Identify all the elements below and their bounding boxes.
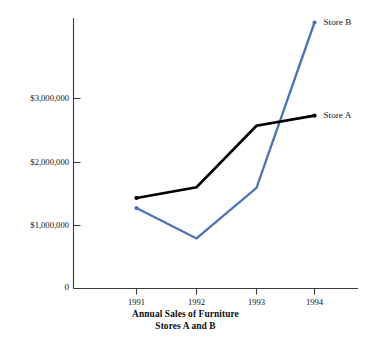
chart-title-block: Annual Sales of Furniture Stores A and B — [0, 309, 371, 332]
series-line-store-b — [137, 23, 315, 239]
x-tick-label-1991: 1991 — [128, 297, 145, 307]
series-label-store-a: Store A — [324, 110, 352, 120]
chart-title: Annual Sales of Furniture — [0, 309, 371, 321]
series-label-store-b: Store B — [324, 17, 352, 27]
y-tick-label-0: 0 — [65, 282, 70, 292]
series-markers-store-b — [134, 20, 316, 210]
series-line-store-a — [137, 116, 315, 198]
y-tick-label-1000000: $1,000,000 — [30, 220, 69, 230]
chart-plot-area: $3,000,000 $2,000,000 $1,000,000 0 1991 … — [0, 0, 371, 351]
y-tick-label-2000000: $2,000,000 — [30, 157, 69, 167]
x-tick-label-1992: 1992 — [188, 297, 205, 307]
y-tick-label-3000000: $3,000,000 — [30, 93, 69, 103]
line-chart: $3,000,000 $2,000,000 $1,000,000 0 1991 … — [0, 0, 371, 351]
x-tick-label-1994: 1994 — [306, 297, 324, 307]
x-tick-label-1993: 1993 — [248, 297, 265, 307]
chart-subtitle: Stores A and B — [0, 321, 371, 333]
